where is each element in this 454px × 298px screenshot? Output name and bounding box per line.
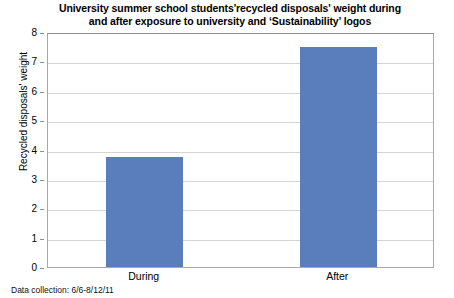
y-axis-tick-label: 7 bbox=[31, 57, 37, 67]
y-axis-tick-mark bbox=[40, 33, 44, 34]
plot-area bbox=[47, 33, 434, 268]
bar-chart: University summer school students'recycl… bbox=[0, 0, 454, 298]
y-axis-tick-labels: 012345678 bbox=[0, 33, 43, 268]
y-axis-tick-label: 2 bbox=[31, 204, 37, 214]
y-axis-tick-label: 1 bbox=[31, 234, 37, 244]
footnote: Data collection: 6/6-8/12/11 bbox=[11, 285, 114, 295]
y-axis-tick-label: 4 bbox=[31, 146, 37, 156]
y-axis-tick-label: 0 bbox=[31, 263, 37, 273]
y-axis-tick-label: 6 bbox=[31, 87, 37, 97]
y-axis-tick-label: 3 bbox=[31, 175, 37, 185]
y-axis-tick-mark bbox=[40, 92, 44, 93]
y-axis-tick-mark bbox=[40, 180, 44, 181]
x-axis-tick-labels: DuringAfter bbox=[47, 270, 434, 286]
y-axis-tick-label: 8 bbox=[31, 28, 37, 38]
chart-title-line-1: University summer school students'recycl… bbox=[30, 2, 430, 15]
chart-title-line-2: and after exposure to university and ‘Su… bbox=[30, 15, 430, 28]
y-axis-tick-mark bbox=[40, 239, 44, 240]
y-axis-tick-mark bbox=[40, 151, 44, 152]
x-axis-tick-label: After bbox=[326, 270, 348, 282]
y-axis-tick-mark bbox=[40, 209, 44, 210]
bar-during bbox=[106, 157, 183, 267]
chart-title: University summer school students'recycl… bbox=[30, 2, 430, 27]
y-axis-tick-label: 5 bbox=[31, 116, 37, 126]
y-axis-tick-mark bbox=[40, 121, 44, 122]
bar-after bbox=[300, 47, 377, 267]
x-axis-tick-label: During bbox=[128, 270, 159, 282]
bars-layer bbox=[48, 34, 433, 267]
y-axis-tick-mark bbox=[40, 268, 44, 269]
y-axis-tick-mark bbox=[40, 62, 44, 63]
